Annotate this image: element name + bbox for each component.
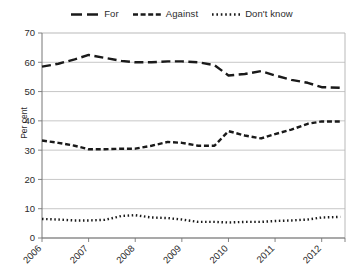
y-tick-label: 70 [24,27,35,38]
y-tick-label: 50 [24,86,35,97]
y-tick-label: 40 [24,115,35,126]
plot-area: 0102030405060702006200720082009201020112… [0,0,363,279]
series-line-don-t-know [42,215,340,222]
x-tick-label: 2010 [207,243,230,266]
series-line-against [42,121,340,149]
x-tick-label: 2011 [254,243,276,265]
x-tick-label: 2008 [114,243,137,266]
line-chart: For Against Don't know Per cent 01020304… [0,0,363,279]
x-tick-label: 2012 [300,243,323,266]
x-tick-label: 2009 [161,243,184,266]
series-line-for [42,55,340,88]
y-tick-label: 20 [24,174,35,185]
y-tick-label: 10 [24,203,35,214]
y-tick-label: 0 [30,232,35,243]
y-tick-label: 60 [24,57,35,68]
y-tick-label: 30 [24,145,35,156]
x-tick-label: 2007 [67,243,90,266]
x-tick-label: 2006 [21,243,44,266]
